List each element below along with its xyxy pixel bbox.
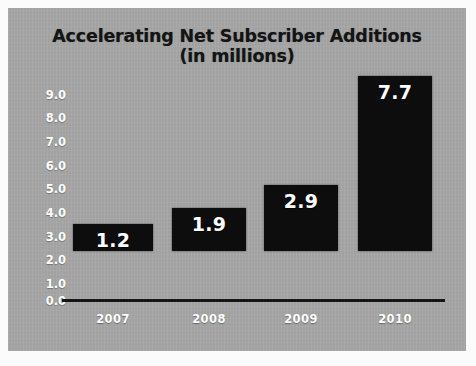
chart-screenshot: Accelerating Net Subscriber Additions (i…: [0, 0, 476, 366]
x-label-2010: 2010: [358, 313, 432, 326]
x-axis: 2007 2008 2009 2010: [8, 8, 466, 351]
x-label-2009: 2009: [264, 313, 338, 326]
x-label-2008: 2008: [172, 313, 246, 326]
x-label-2007: 2007: [73, 313, 153, 326]
plot-area: 9.0 8.0 7.0 6.0 5.0 4.0 3.0 2.0 1.0 0.0 …: [8, 8, 466, 351]
chart-panel: Accelerating Net Subscriber Additions (i…: [8, 8, 466, 351]
